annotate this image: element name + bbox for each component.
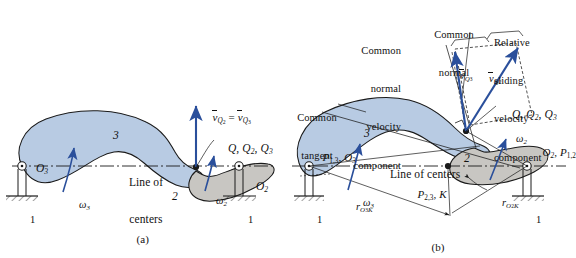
line-of-centers-label-b: Line of centers [378,156,460,193]
pivot-label-o2-a: O2 [244,168,268,206]
cnvc-line1: Common [333,45,401,58]
instant-center-right-label-b: O2, P1,2 [531,135,576,172]
omega2-label-a: ω2 [205,184,227,218]
right-angle-marker-b [455,120,465,127]
ground-label-left-a: 1 [19,203,35,236]
pivot-label-o3-a: O3 [24,150,48,188]
velocity-label-q2-b: vQ2 [478,62,502,97]
velocity-label-q3-b: vQ3 [449,59,473,94]
pivot-o3-center-a [21,165,24,168]
caption-a: (a) [125,222,149,257]
line-of-centers-line1-a: Line of [113,176,179,188]
common-tangent-line1: Common [289,112,345,125]
ground-label-right-b: 1 [525,203,541,236]
ground-label-right-a: 1 [237,203,253,236]
contact-label-a: Q, Q2, Q3 [216,130,273,168]
rsvc-line1: Relative [494,37,566,50]
link3-label-a: 3 [101,117,119,154]
ground-label-left-b: 1 [306,203,322,236]
omega3-label-a: ω3 [68,188,90,222]
radius-o3k-label-b: rO3K [345,190,373,225]
radius-o2k-label-b: rO2K [491,186,519,221]
common-normal-line1: Common [423,29,485,42]
ground-hatch-left-b [294,196,324,201]
ground-hatch-left-a [6,196,38,201]
rsvc-line2: sliding [494,75,566,88]
instant-center-left-label-b: P1,3, O3 [311,140,356,177]
leader-q-label-b [466,106,496,131]
leader-q-label-a [196,140,214,167]
omega2-label-b: ω2 [505,122,527,156]
caption-b: (b) [420,230,445,258]
